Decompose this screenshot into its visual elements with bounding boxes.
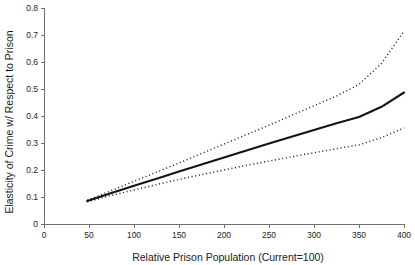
- chart-container: 00.10.20.30.40.50.60.70.8 05010015020025…: [0, 0, 415, 265]
- y-tick-label: 0.2: [26, 165, 38, 175]
- x-axis-title: Relative Prison Population (Current=100): [132, 251, 324, 263]
- x-tick-label: 100: [127, 230, 141, 240]
- y-tick-label: 0.6: [26, 57, 38, 67]
- x-tick-label: 300: [307, 230, 321, 240]
- plot-background: [0, 0, 415, 265]
- y-tick-label: 0.8: [26, 3, 38, 13]
- y-tick-label: 0.5: [26, 84, 38, 94]
- x-tick-label: 150: [172, 230, 186, 240]
- x-tick-label: 200: [217, 230, 231, 240]
- x-tick-label: 350: [352, 230, 366, 240]
- y-axis-title: Elasticity of Crime w/ Respect to Prison: [3, 30, 15, 213]
- elasticity-line-chart: 00.10.20.30.40.50.60.70.8 05010015020025…: [0, 0, 415, 265]
- y-tick-label: 0.7: [26, 30, 38, 40]
- x-tick-label: 400: [397, 230, 411, 240]
- y-tick-label: 0.3: [26, 138, 38, 148]
- x-tick-label: 250: [262, 230, 276, 240]
- y-tick-label: 0: [33, 219, 38, 229]
- y-tick-label: 0.4: [26, 111, 38, 121]
- x-tick-label: 0: [42, 230, 47, 240]
- x-tick-label: 50: [84, 230, 94, 240]
- y-tick-label: 0.1: [26, 192, 38, 202]
